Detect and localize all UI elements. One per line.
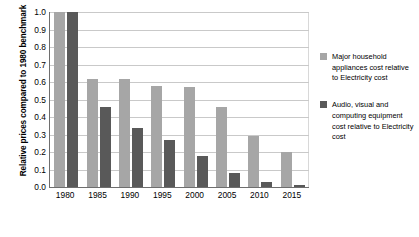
y-axis-tick-label: 0.3 — [34, 130, 46, 138]
bar[interactable] — [100, 107, 111, 188]
bar[interactable] — [87, 79, 98, 188]
bar[interactable] — [281, 152, 292, 187]
x-axis-tick-label: 2015 — [276, 190, 308, 200]
x-axis-tick-label: 1995 — [146, 190, 178, 200]
bar[interactable] — [119, 79, 130, 188]
y-axis-tick-label: 0.4 — [34, 113, 46, 121]
bar-group — [212, 12, 244, 187]
x-axis-tick-label: 2010 — [243, 190, 275, 200]
x-axis-tick-labels: 19801985199019952000200520102015 — [49, 190, 308, 200]
legend-entry[interactable]: Major household appliances cost relative… — [320, 52, 415, 84]
bar-group — [244, 12, 276, 187]
bar[interactable] — [248, 136, 259, 187]
bar[interactable] — [216, 107, 227, 188]
y-axis-tick-label: 0.0 — [34, 183, 46, 191]
bar[interactable] — [164, 140, 175, 187]
bar-group — [50, 12, 82, 187]
legend-entry[interactable]: Audio, visual and computing equipment co… — [320, 100, 415, 143]
y-axis-tick-label: 0.1 — [34, 165, 46, 173]
bar-group — [277, 12, 309, 187]
bar-group — [115, 12, 147, 187]
y-axis-tick-label: 1.0 — [34, 8, 46, 16]
bar[interactable] — [151, 86, 162, 188]
legend-swatch-icon — [320, 53, 327, 60]
legend-label: Major household appliances cost relative… — [332, 52, 415, 84]
y-axis-tick-label: 0.7 — [34, 60, 46, 68]
y-axis-tick-label: 0.5 — [34, 95, 46, 103]
bar[interactable] — [67, 12, 78, 187]
bar-group — [82, 12, 114, 187]
y-axis-tick-label: 0.9 — [34, 25, 46, 33]
x-axis-tick-label: 2000 — [179, 190, 211, 200]
bar[interactable] — [132, 128, 143, 188]
y-axis-tick-label: 0.2 — [34, 148, 46, 156]
bar-groups — [50, 12, 309, 187]
legend-label: Audio, visual and computing equipment co… — [332, 100, 415, 143]
y-axis-tick-labels: 1.00.90.80.70.60.50.40.30.20.10.0 — [24, 12, 46, 187]
bar-chart: Relative prices compared to 1980 benchma… — [0, 0, 419, 237]
x-axis-tick-label: 1980 — [49, 190, 81, 200]
bar[interactable] — [229, 173, 240, 187]
x-axis-tick-label: 1985 — [81, 190, 113, 200]
plot-area — [49, 12, 309, 188]
y-axis-tick-label: 0.6 — [34, 78, 46, 86]
bar-group — [180, 12, 212, 187]
chart-legend: Major household appliances cost relative… — [320, 52, 415, 159]
bar[interactable] — [184, 87, 195, 187]
y-axis-tick-label: 0.8 — [34, 43, 46, 51]
legend-swatch-icon — [320, 101, 327, 108]
bar[interactable] — [294, 185, 305, 187]
bar-group — [147, 12, 179, 187]
bar[interactable] — [197, 156, 208, 188]
x-axis-tick-label: 1990 — [114, 190, 146, 200]
bar[interactable] — [54, 12, 65, 187]
x-axis-tick-label: 2005 — [211, 190, 243, 200]
bar[interactable] — [261, 182, 272, 187]
